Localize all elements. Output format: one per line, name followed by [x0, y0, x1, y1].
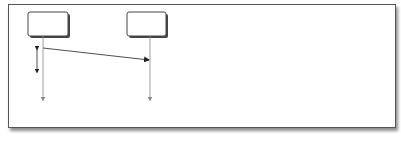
tcp-fast-open-diagram: [0, 0, 401, 150]
panel-a: [28, 12, 168, 99]
panel-a-client-box: [28, 12, 70, 38]
syn-arrow: [43, 48, 149, 60]
panel-a-server-box: [127, 12, 168, 38]
